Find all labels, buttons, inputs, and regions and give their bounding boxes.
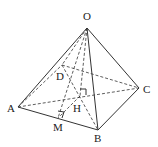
edge-OC [87,28,139,88]
edge-OD [62,28,87,65]
label-D: D [56,70,64,82]
label-C: C [143,83,150,95]
edge-OA [18,28,87,107]
label-O: O [83,10,91,22]
edge-BC [98,88,139,130]
pyramid-diagram: O A B C D H M [0,0,158,147]
label-H: H [73,102,81,114]
label-M: M [53,121,63,133]
label-A: A [7,102,15,114]
edge-OB [87,28,98,130]
diagonal-DB [62,65,98,130]
label-B: B [94,132,101,144]
